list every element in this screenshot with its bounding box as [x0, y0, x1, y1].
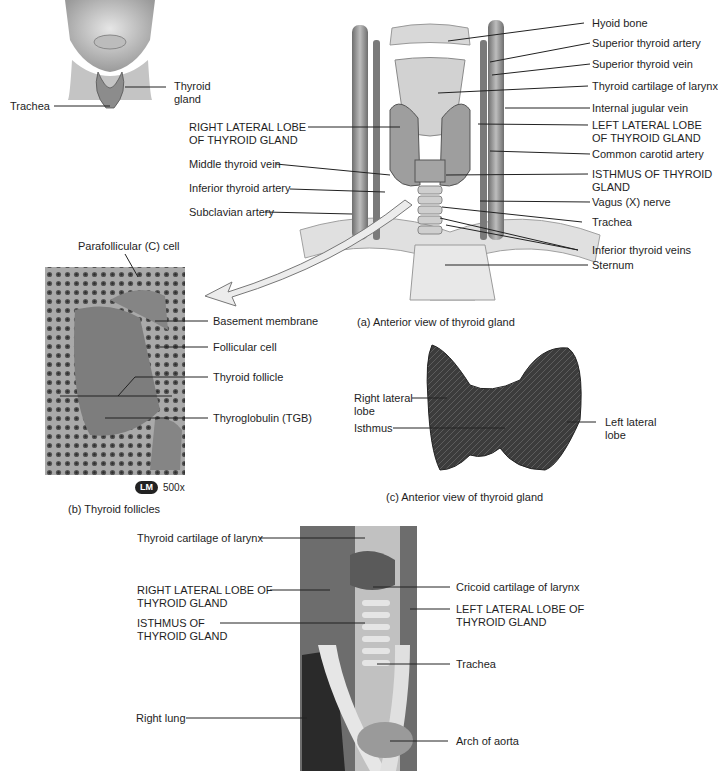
label-c-left-lobe-1: Left lateral: [605, 416, 656, 429]
cadaver-dissection-photo: [300, 526, 417, 771]
label-thyroid-cartilage: Thyroid cartilage of larynx: [592, 80, 718, 93]
label-c-right-lobe-2: lobe: [354, 405, 375, 418]
label-d-right-lung: Right lung: [136, 712, 186, 725]
label-internal-jugular-vein: Internal jugular vein: [592, 102, 688, 115]
magnification: 500x: [163, 481, 185, 494]
label-d-thyroid-cartilage: Thyroid cartilage of larynx: [137, 532, 263, 545]
label-left-lateral-lobe-1: LEFT LATERAL LOBE: [592, 119, 702, 132]
label-follicular-cell: Follicular cell: [213, 341, 277, 354]
label-isthmus-1: ISTHMUS OF THYROID: [592, 168, 712, 181]
thyroid-specimen: [427, 345, 581, 470]
label-vagus-nerve: Vagus (X) nerve: [592, 196, 671, 209]
label-superior-thyroid-artery: Superior thyroid artery: [592, 37, 701, 50]
label-inset-thyroid-1: Thyroid: [174, 80, 211, 93]
label-d-right-lobe-1: RIGHT LATERAL LOBE OF: [137, 584, 273, 597]
label-inferior-thyroid-veins: Inferior thyroid veins: [592, 244, 691, 257]
label-hyoid-bone: Hyoid bone: [592, 17, 648, 30]
label-inset-thyroid-2: gland: [174, 93, 201, 106]
label-subclavian-artery: Subclavian artery: [189, 206, 274, 219]
label-inset-trachea: Trachea: [10, 100, 50, 113]
label-parafollicular-cell: Parafollicular (C) cell: [78, 240, 179, 253]
label-d-right-lobe-2: THYROID GLAND: [137, 597, 227, 610]
inset-neck-illustration: [65, 0, 155, 108]
label-trachea: Trachea: [592, 216, 632, 229]
label-right-lateral-lobe-1: RIGHT LATERAL LOBE: [189, 121, 306, 134]
label-thyroid-follicle: Thyroid follicle: [213, 371, 283, 384]
label-d-left-lobe-2: THYROID GLAND: [456, 616, 546, 629]
label-superior-thyroid-vein: Superior thyroid vein: [592, 58, 693, 71]
label-d-trachea: Trachea: [456, 658, 496, 671]
label-basement-membrane: Basement membrane: [213, 315, 318, 328]
label-common-carotid-artery: Common carotid artery: [592, 148, 704, 161]
label-d-cricoid-cartilage: Cricoid cartilage of larynx: [456, 581, 580, 594]
follicle-micrograph: [45, 267, 185, 475]
label-c-isthmus: Isthmus: [354, 422, 393, 435]
label-thyroglobulin: Thyroglobulin (TGB): [213, 412, 312, 425]
caption-panel-a: (a) Anterior view of thyroid gland: [357, 316, 515, 329]
label-inferior-thyroid-artery: Inferior thyroid artery: [189, 182, 290, 195]
label-c-right-lobe-1: Right lateral: [354, 392, 413, 405]
label-isthmus-2: GLAND: [592, 181, 630, 194]
caption-panel-b: (b) Thyroid follicles: [68, 503, 160, 516]
label-d-left-lobe-1: LEFT LATERAL LOBE OF: [456, 603, 584, 616]
label-c-left-lobe-2: lobe: [605, 429, 626, 442]
label-sternum: Sternum: [592, 259, 634, 272]
label-d-isthmus-1: ISTHMUS OF: [137, 617, 205, 630]
label-middle-thyroid-vein: Middle thyroid vein: [189, 158, 281, 171]
lm-badge: LM: [135, 481, 158, 494]
label-d-arch-of-aorta: Arch of aorta: [456, 735, 519, 748]
label-right-lateral-lobe-2: OF THYROID GLAND: [189, 134, 298, 147]
label-left-lateral-lobe-2: OF THYROID GLAND: [592, 132, 701, 145]
caption-panel-c: (c) Anterior view of thyroid gland: [386, 491, 543, 504]
artwork-layer: [0, 0, 718, 776]
label-d-isthmus-2: THYROID GLAND: [137, 630, 227, 643]
